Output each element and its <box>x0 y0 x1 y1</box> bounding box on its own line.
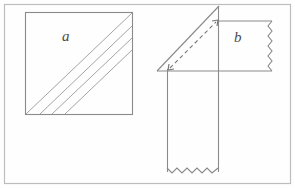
diagram-svg <box>0 0 295 188</box>
torn-edge-bottom-zigzag <box>167 168 218 173</box>
label-a: a <box>62 28 70 45</box>
label-b: b <box>234 29 242 46</box>
hatch-lines <box>26 13 132 114</box>
triangle-hypotenuse <box>157 6 219 71</box>
folded-strip-group <box>157 6 272 173</box>
hatched-square-group <box>26 13 133 115</box>
diagram-canvas: a b <box>0 0 295 188</box>
torn-edge-right-zigzag <box>268 21 272 71</box>
dashed-double-arrow <box>168 20 218 70</box>
